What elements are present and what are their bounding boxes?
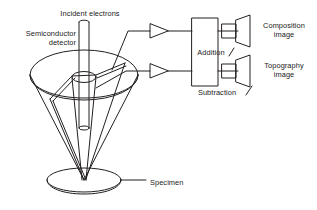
detector-collection-cone bbox=[30, 63, 138, 180]
amplifier-top bbox=[150, 24, 192, 38]
amplifier-bottom bbox=[150, 64, 192, 78]
figure-canvas: Incident electrons Semiconductor detecto… bbox=[0, 0, 317, 210]
detector-signal-leads bbox=[96, 31, 150, 88]
label-specimen: Specimen bbox=[150, 178, 206, 187]
specimen-stage-disc bbox=[47, 168, 121, 194]
label-subtraction: Subtraction bbox=[186, 88, 248, 97]
split-semiconductor-detector-disc bbox=[30, 50, 138, 101]
label-topography-image: Topography image bbox=[252, 61, 316, 79]
label-incident-electrons: Incident electrons bbox=[44, 9, 136, 18]
label-composition-image: Composition image bbox=[252, 21, 316, 39]
label-addition: Addition bbox=[190, 48, 232, 57]
label-semiconductor-detector: Semiconductor detector bbox=[2, 29, 76, 47]
